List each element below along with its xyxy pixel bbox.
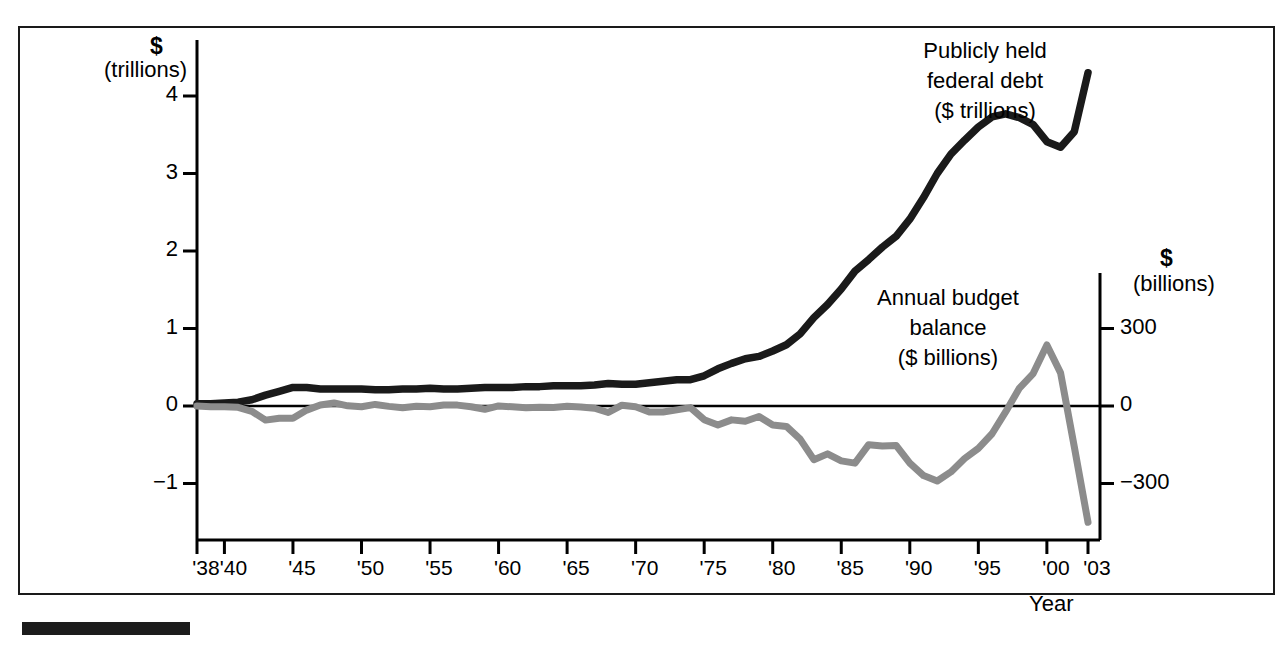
x-tick-label-11: '90 [889, 556, 949, 580]
source-bar [22, 622, 190, 635]
x-tick-label-6: '65 [546, 556, 606, 580]
x-tick-label-3: '50 [340, 556, 400, 580]
x-tick-label-10: '85 [820, 556, 880, 580]
balance-annotation-line-1: Annual budget [838, 283, 1058, 313]
debt-annotation-line-3: ($ trillions) [870, 96, 1100, 126]
left-axis-currency-symbol: $ [150, 33, 163, 60]
debt-annotation-line-1: Publicly held [870, 36, 1100, 66]
left-tick-label-0: 4 [118, 81, 178, 107]
right-tick-label-2: −300 [1120, 469, 1170, 495]
x-tick-label-9: '80 [752, 556, 812, 580]
right-tick-label-0: 300 [1120, 314, 1157, 340]
balance-annotation-line-2: balance [838, 313, 1058, 343]
left-tick-label-5: −1 [118, 469, 178, 495]
left-axis-unit-label: (trillions) [104, 57, 187, 83]
x-tick-label-8: '75 [683, 556, 743, 580]
right-axis-ticks [1100, 329, 1114, 484]
x-tick-label-12: '95 [957, 556, 1017, 580]
x-tick-label-14: '03 [1067, 556, 1127, 580]
x-tick-label-4: '55 [409, 556, 469, 580]
x-axis-title: Year [1029, 591, 1073, 617]
debt-annotation-line-2: federal debt [870, 66, 1100, 96]
balance-annotation: Annual budget balance ($ billions) [838, 283, 1058, 373]
left-tick-label-3: 1 [118, 314, 178, 340]
x-tick-label-1: '40 [203, 556, 263, 580]
debt-annotation: Publicly held federal debt ($ trillions) [870, 36, 1100, 126]
left-tick-label-4: 0 [118, 391, 178, 417]
x-tick-label-5: '60 [478, 556, 538, 580]
left-axis-ticks [183, 96, 197, 484]
right-tick-label-1: 0 [1120, 391, 1132, 417]
x-axis-ticks [197, 540, 1088, 554]
x-tick-label-2: '45 [272, 556, 332, 580]
right-axis-unit-label: (billions) [1133, 271, 1215, 297]
balance-annotation-line-3: ($ billions) [838, 343, 1058, 373]
right-axis-currency-symbol: $ [1160, 245, 1173, 272]
figure-root: $ (trillions) $ (billions) Publicly held… [0, 0, 1287, 646]
left-tick-label-1: 3 [118, 159, 178, 185]
x-tick-label-7: '70 [615, 556, 675, 580]
left-tick-label-2: 2 [118, 236, 178, 262]
